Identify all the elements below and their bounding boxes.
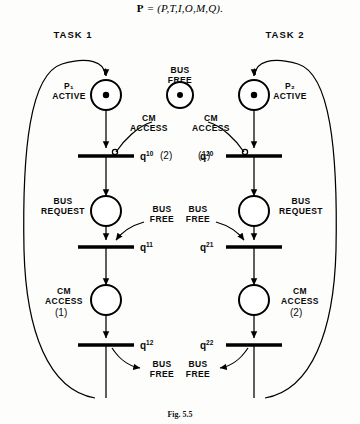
place-bus-request-task2	[239, 196, 269, 226]
transition-label-q22: q22	[200, 339, 213, 351]
transition-label-q21: q21	[200, 241, 213, 253]
transition-label-q10: q10	[140, 150, 153, 162]
arc-label-cm-access-q20: CM ACCESS	[184, 114, 238, 133]
petri-net-figure: P = (P,T,I,O,M,Q).	[0, 0, 360, 424]
token-p2-active	[251, 92, 257, 98]
task2-header: TASK 2	[250, 30, 320, 40]
place-label-p1-active: P₁ ACTIVE	[41, 82, 97, 101]
feedback-loop-task1	[24, 60, 105, 398]
token-bus-free-shared	[177, 92, 183, 98]
arc-busfree-to-q21	[216, 222, 244, 240]
feedback-loop-task2-arrowhead	[254, 69, 255, 76]
place-label-bus-request-task1: BUS REQUEST	[30, 197, 96, 216]
transition-label-q12: q12	[140, 339, 153, 351]
place-label-bus-request-task2: BUS REQUEST	[268, 197, 334, 216]
transition-label-q20: q20	[200, 150, 213, 162]
arc-label-bus-free-q21: BUS FREE	[176, 205, 220, 224]
place-cm-access-task2	[239, 285, 269, 315]
feedback-loop-task1-arrowhead	[105, 69, 106, 76]
place-cm-access-task1	[91, 285, 121, 315]
task1-header: TASK 1	[38, 30, 108, 40]
place-label-bus-free-shared: BUS FREE	[155, 66, 205, 85]
feedback-loop-task2	[255, 60, 336, 398]
arc-busfree-to-q11	[116, 222, 144, 240]
inhibitor-circle-q20	[242, 149, 247, 154]
arc-q12-to-busfree	[112, 348, 140, 368]
figure-caption: Fig. 5.5	[0, 410, 360, 422]
place-label-cm-access-task1: CM ACCESS	[34, 287, 94, 306]
place-label-p2-active: P₂ ACTIVE	[262, 82, 318, 101]
token-p1-active	[103, 92, 109, 98]
place-count-cm-access-task2: (2)	[290, 307, 302, 318]
transition-label-q11: q11	[140, 241, 153, 253]
inhibitor-circle-q10	[112, 149, 117, 154]
arc-label-cm-access-q10: CM ACCESS	[122, 114, 176, 133]
arc-label-bus-free-q22-out: BUS FREE	[176, 360, 220, 379]
place-count-cm-access-task1: (1)	[55, 307, 67, 318]
arc-count-cm-access-q10: (2)	[160, 150, 172, 161]
place-label-cm-access-task2: CM ACCESS	[270, 287, 330, 306]
arc-q22-to-busfree	[220, 348, 248, 368]
